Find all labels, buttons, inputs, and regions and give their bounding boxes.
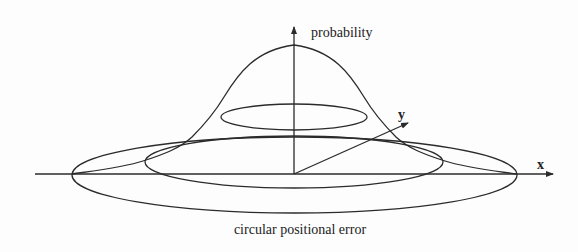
caption: circular positional error — [234, 222, 367, 237]
probability-axis-label: probability — [311, 25, 372, 40]
y-axis — [294, 123, 408, 174]
x-axis-label: x — [537, 157, 544, 172]
y-axis-label: y — [398, 107, 405, 122]
circular-error-diagram: probability y x circular positional erro… — [0, 0, 578, 252]
